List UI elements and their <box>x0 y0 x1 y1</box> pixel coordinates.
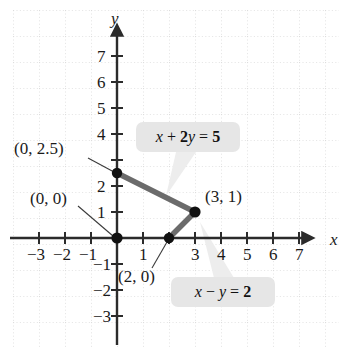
coordinate-plane <box>0 0 356 362</box>
point-2-0 <box>164 233 174 243</box>
x-tick-label-1: 1 <box>139 246 148 263</box>
y-tick-label-neg3: −3 <box>93 308 111 325</box>
y-tick-label-7: 7 <box>97 48 106 65</box>
y-tick-label-2: 2 <box>97 178 106 195</box>
callout-upper-text: x + 2y = 5 <box>156 129 220 145</box>
callout-lower-text: x − y = 2 <box>195 284 251 300</box>
callout-upper-value: 5 <box>212 128 220 145</box>
callout-upper-var-x: x <box>156 128 163 145</box>
point-0-0 <box>111 232 122 243</box>
x-tick-label-4: 4 <box>217 246 226 263</box>
callout-upper-plus: + <box>167 128 176 145</box>
callout-upper-coef: 2 <box>180 128 188 145</box>
point-0-2-5 <box>112 168 122 178</box>
graph-figure: x y −3 −2 −1 1 3 4 5 6 7 7 6 5 4 2 1 −1 … <box>0 0 356 362</box>
x-tick-label-neg2: −2 <box>53 246 71 263</box>
callout-lower-var-x: x <box>195 283 202 300</box>
point-3-1 <box>189 206 200 217</box>
y-tick-label-neg2: −2 <box>93 282 111 299</box>
x-tick-label-7: 7 <box>295 246 304 263</box>
callout-lower-equals: = <box>230 283 239 300</box>
y-tick-label-4: 4 <box>97 126 106 143</box>
x-axis-label: x <box>330 231 338 248</box>
x-tick-label-3: 3 <box>191 246 200 263</box>
point-label-0-2-5: (0, 2.5) <box>14 140 64 157</box>
point-label-3-1: (3, 1) <box>205 188 242 205</box>
y-tick-label-neg1: −1 <box>93 256 111 273</box>
x-tick-label-5: 5 <box>243 246 252 263</box>
x-tick-label-6: 6 <box>269 246 278 263</box>
x-tick-label-neg3: −3 <box>27 246 45 263</box>
callout-equation-upper: x + 2y = 5 <box>136 122 240 152</box>
callout-equation-lower: x − y = 2 <box>171 277 275 307</box>
y-tick-label-5: 5 <box>97 100 106 117</box>
y-tick-label-6: 6 <box>97 74 106 91</box>
point-label-2-0: (2, 0) <box>118 268 155 285</box>
callout-lower-minus: − <box>206 283 215 300</box>
y-tick-label-1: 1 <box>97 204 106 221</box>
point-label-0-0: (0, 0) <box>30 190 67 207</box>
y-axis-label: y <box>111 10 119 27</box>
callout-upper-equals: = <box>199 128 208 145</box>
callout-lower-value: 2 <box>243 283 251 300</box>
